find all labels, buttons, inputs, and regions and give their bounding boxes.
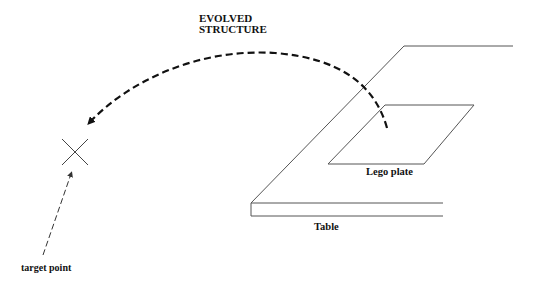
table-label: Table bbox=[314, 222, 339, 233]
evolved-label-line2: STRUCTURE bbox=[199, 24, 267, 35]
target-pointer-arrow bbox=[43, 174, 71, 255]
lego-plate-shape bbox=[328, 105, 474, 164]
table-back-edge bbox=[251, 46, 513, 203]
lego-plate-label: Lego plate bbox=[366, 167, 413, 178]
target-point-label: target point bbox=[21, 263, 71, 273]
diagram-canvas bbox=[0, 0, 538, 284]
target-x-marker bbox=[62, 139, 88, 165]
evolved-structure-label: EVOLVED STRUCTURE bbox=[199, 13, 267, 35]
table-surface bbox=[251, 46, 513, 216]
evolved-structure-arc bbox=[90, 52, 387, 128]
